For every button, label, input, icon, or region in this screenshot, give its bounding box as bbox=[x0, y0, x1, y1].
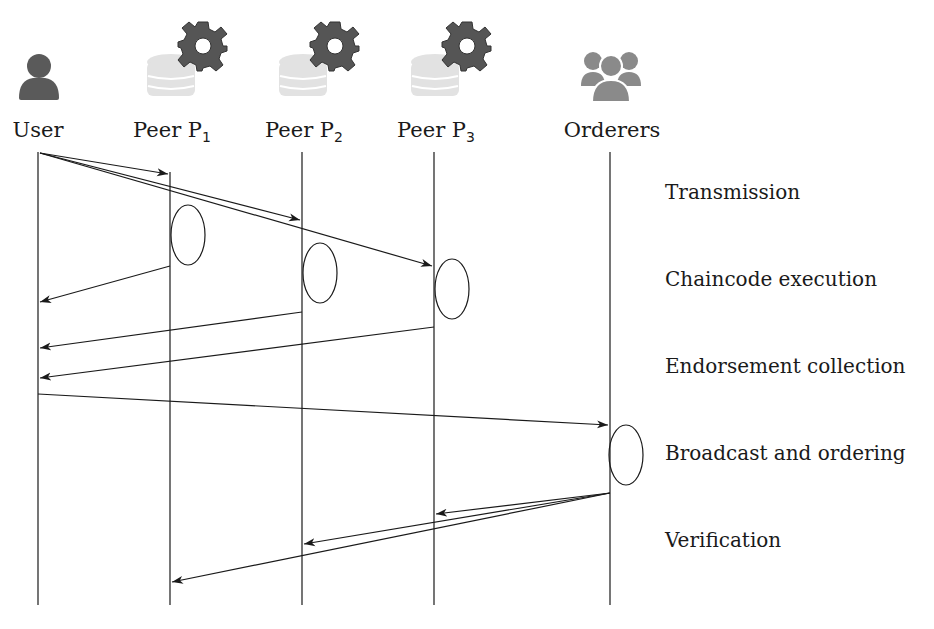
actor-label-user: User bbox=[13, 118, 64, 142]
msg-p3-user bbox=[40, 327, 434, 378]
msg-p2-user bbox=[40, 312, 302, 348]
phase-verification: Verification bbox=[665, 528, 781, 552]
user-icon bbox=[16, 52, 62, 102]
exec-loop-p2 bbox=[303, 243, 337, 303]
actor-label-orderers: Orderers bbox=[564, 118, 660, 142]
phase-transmission: Transmission bbox=[665, 180, 800, 204]
group-icon bbox=[580, 50, 642, 104]
msg-user-p3 bbox=[40, 153, 432, 266]
msg-user-orderers bbox=[38, 394, 608, 425]
msg-orderers-p2 bbox=[304, 493, 610, 544]
phase-chaincode-execution: Chaincode execution bbox=[665, 267, 877, 291]
actor-label-peer-p1: Peer P1 bbox=[133, 118, 211, 145]
peer-database-gear-icon bbox=[410, 20, 494, 102]
phase-broadcast-ordering: Broadcast and ordering bbox=[665, 441, 906, 465]
ordering-loop bbox=[609, 425, 643, 485]
actor-label-peer-p3: Peer P3 bbox=[397, 118, 475, 145]
actor-label-peer-p2: Peer P2 bbox=[265, 118, 343, 145]
exec-loop-p1 bbox=[171, 205, 205, 265]
peer-database-gear-icon bbox=[278, 20, 362, 102]
peer-database-gear-icon bbox=[146, 20, 230, 102]
msg-orderers-p1 bbox=[172, 493, 610, 582]
exec-loop-p3 bbox=[435, 259, 469, 319]
msg-p1-user bbox=[40, 266, 170, 302]
phase-endorsement-collection: Endorsement collection bbox=[665, 354, 906, 378]
